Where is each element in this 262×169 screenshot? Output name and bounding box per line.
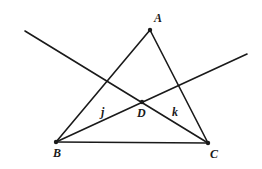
label-A: A <box>153 11 162 25</box>
geometry-diagram: A B C D j k <box>0 0 262 169</box>
label-k: k <box>172 105 178 119</box>
point-C <box>206 141 210 145</box>
point-D <box>140 100 144 104</box>
label-D: D <box>136 106 146 120</box>
label-C: C <box>210 147 219 161</box>
side-BC <box>56 142 208 143</box>
line-k <box>25 31 208 143</box>
label-B: B <box>52 146 61 160</box>
side-AB <box>56 30 150 142</box>
triangle-abc <box>56 30 208 143</box>
point-B <box>54 140 58 144</box>
point-A <box>148 28 152 32</box>
label-j: j <box>99 105 105 119</box>
